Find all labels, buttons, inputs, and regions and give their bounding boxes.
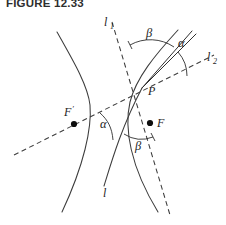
label-line-l2: l xyxy=(207,50,211,64)
hyperbola-diagram-svg: l 1 l 2 l P F F ′ β α α β xyxy=(0,0,226,225)
label-angle-beta-bottom: β xyxy=(134,139,142,153)
ray-parallel-path xyxy=(142,34,196,88)
label-line-l: l xyxy=(103,186,107,200)
hyperbola-right-branch xyxy=(128,30,178,212)
tick-beta-top xyxy=(128,41,132,49)
label-angle-alpha-top: α xyxy=(178,36,185,50)
tick-beta-bottom xyxy=(151,133,155,141)
label-focus-f: F xyxy=(156,116,165,130)
label-angle-alpha-bottom: α xyxy=(100,117,107,131)
focus-f-dot xyxy=(147,120,153,126)
label-line-l2-subscript: 2 xyxy=(213,57,217,66)
label-focus-f-prime-mark: ′ xyxy=(72,105,74,114)
tangent-line-l-path xyxy=(104,88,142,186)
angle-arc-alpha-top xyxy=(178,52,187,76)
angle-arc-beta-top xyxy=(130,40,174,47)
line-l2-path xyxy=(14,55,214,155)
label-line-l1-subscript: 1 xyxy=(110,22,114,31)
focus-f-prime-dot xyxy=(71,121,77,127)
label-focus-f-prime: F xyxy=(63,105,72,119)
figure-container: FIGURE 12.33 l 1 l 2 l P F F xyxy=(0,0,226,225)
label-line-l1: l xyxy=(104,15,108,29)
label-angle-beta-top: β xyxy=(145,26,153,40)
label-point-p: P xyxy=(147,84,156,98)
